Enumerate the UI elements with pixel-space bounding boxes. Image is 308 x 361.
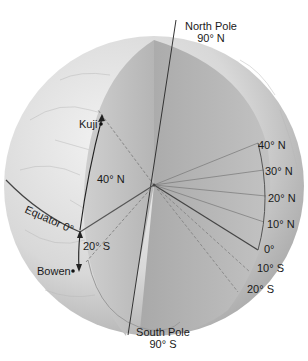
lat-label-30n: 30° N [265,165,293,177]
lat-label-20s: 20° S [247,283,274,295]
place-kuji-label: Kuji [79,118,97,130]
lat-label-10s: 10° S [257,262,284,274]
globe-latitude-diagram: North Pole 90° N South Pole 90° S Kuji B… [0,0,308,361]
lat-label-0: 0° [264,243,275,255]
kuji-dot [99,122,103,126]
south-pole-label: South Pole 90° S [128,326,198,350]
bowen-dot [71,269,75,273]
lat-label-20n: 20° N [268,192,296,204]
lat-label-10n: 10° N [267,218,295,230]
north-pole-latitude: 90° N [176,32,246,44]
north-pole-name: North Pole [176,20,246,32]
north-pole-label: North Pole 90° N [176,20,246,44]
lat-label-40n: 40° N [258,139,286,151]
place-bowen-label: Bowen [37,265,71,277]
south-pole-latitude: 90° S [128,338,198,350]
globe-illustration [0,0,308,361]
arc-40n-label: 40° N [97,173,125,185]
south-pole-name: South Pole [128,326,198,338]
arc-20s-label: 20° S [83,240,110,252]
